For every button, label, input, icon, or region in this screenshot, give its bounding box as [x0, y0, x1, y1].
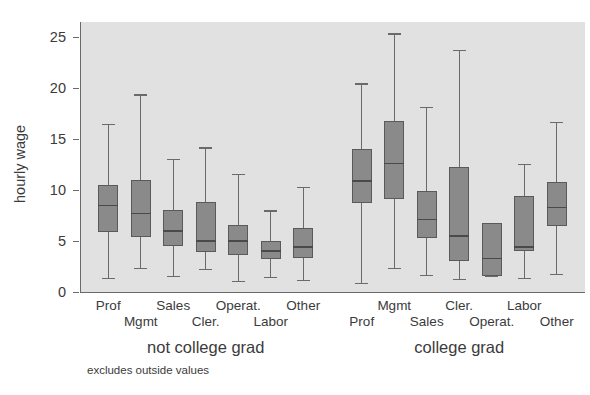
- box-plot-box: [196, 202, 216, 252]
- whisker-cap-lower: [453, 279, 466, 280]
- x-category-label: Cler.: [445, 298, 473, 313]
- box-plot-box: [384, 121, 404, 199]
- median-line: [228, 240, 248, 242]
- median-line: [482, 258, 502, 260]
- whisker-lower: [140, 237, 141, 268]
- y-tick-label: 10: [32, 182, 66, 198]
- box-plot-box: [482, 223, 502, 276]
- whisker-cap-lower: [420, 275, 433, 276]
- median-line: [417, 219, 437, 221]
- whisker-cap-lower: [232, 281, 245, 282]
- whisker-lower: [270, 259, 271, 276]
- whisker-cap-upper: [199, 147, 212, 148]
- whisker-cap-lower: [167, 276, 180, 277]
- x-category-label: Other: [540, 314, 574, 329]
- whisker-lower: [205, 252, 206, 268]
- y-axis-line: [80, 22, 81, 292]
- whisker-cap-upper: [355, 83, 368, 84]
- x-category-label: Mgmt: [377, 298, 411, 313]
- x-category-label: Prof: [96, 298, 121, 313]
- whisker-cap-upper: [167, 159, 180, 160]
- x-category-label: Labor: [507, 298, 542, 313]
- whisker-upper: [361, 83, 362, 149]
- whisker-upper: [303, 187, 304, 228]
- whisker-cap-lower: [355, 283, 368, 284]
- median-line: [131, 213, 151, 215]
- x-category-label: Other: [286, 298, 320, 313]
- x-category-label: Mgmt: [124, 314, 158, 329]
- whisker-upper: [238, 174, 239, 225]
- whisker-lower: [361, 203, 362, 282]
- whisker-cap-lower: [297, 280, 310, 281]
- whisker-lower: [108, 232, 109, 278]
- whisker-upper: [524, 164, 525, 197]
- box-plot-box: [352, 149, 372, 203]
- box-plot-box: [163, 210, 183, 246]
- box-plot-box: [547, 182, 567, 226]
- median-line: [163, 230, 183, 232]
- whisker-cap-lower: [485, 276, 498, 277]
- whisker-cap-lower: [550, 274, 563, 275]
- y-tick-label: 0: [32, 284, 66, 300]
- median-line: [384, 163, 404, 165]
- whisker-cap-lower: [199, 269, 212, 270]
- whisker-cap-lower: [102, 278, 115, 279]
- y-tick-label: 15: [32, 131, 66, 147]
- whisker-lower: [394, 199, 395, 267]
- whisker-upper: [459, 50, 460, 167]
- whisker-cap-upper: [550, 122, 563, 123]
- whisker-cap-upper: [232, 174, 245, 175]
- whisker-cap-lower: [388, 268, 401, 269]
- median-line: [261, 250, 281, 252]
- whisker-lower: [524, 251, 525, 277]
- box-plot-box: [98, 185, 118, 232]
- whisker-cap-upper: [453, 50, 466, 51]
- y-tick-mark: [73, 139, 79, 140]
- whisker-cap-upper: [297, 187, 310, 188]
- box-plot-box: [131, 180, 151, 237]
- y-tick-label: 5: [32, 233, 66, 249]
- box-plot-box: [514, 196, 534, 251]
- whisker-cap-upper: [420, 107, 433, 108]
- box-plot-figure: 0510152025hourly wageProfMgmtSalesCler.O…: [0, 0, 590, 395]
- whisker-lower: [238, 255, 239, 280]
- y-tick-label: 25: [32, 29, 66, 45]
- whisker-upper: [108, 124, 109, 185]
- median-line: [293, 246, 313, 248]
- x-category-label: Labor: [253, 314, 288, 329]
- whisker-lower: [173, 246, 174, 276]
- whisker-lower: [426, 238, 427, 275]
- median-line: [449, 235, 469, 237]
- whisker-cap-upper: [518, 164, 531, 165]
- y-tick-mark: [73, 88, 79, 89]
- x-category-label: Operat.: [469, 314, 514, 329]
- plot-area: [80, 22, 585, 292]
- box-plot-box: [293, 228, 313, 259]
- whisker-lower: [459, 261, 460, 278]
- x-group-label: college grad: [414, 338, 504, 357]
- x-group-label: not college grad: [147, 338, 264, 357]
- whisker-cap-lower: [264, 277, 277, 278]
- median-line: [196, 240, 216, 242]
- median-line: [352, 180, 372, 182]
- whisker-upper: [205, 147, 206, 202]
- whisker-cap-upper: [388, 33, 401, 34]
- whisker-cap-upper: [102, 124, 115, 125]
- median-line: [98, 205, 118, 207]
- y-tick-mark: [73, 241, 79, 242]
- whisker-cap-upper: [134, 94, 147, 95]
- whisker-upper: [394, 33, 395, 121]
- x-axis-line: [80, 292, 585, 293]
- box-plot-box: [417, 191, 437, 238]
- y-tick-mark: [73, 37, 79, 38]
- x-category-label: Sales: [156, 298, 190, 313]
- x-category-label: Prof: [349, 314, 374, 329]
- x-category-label: Sales: [410, 314, 444, 329]
- y-tick-mark: [73, 190, 79, 191]
- whisker-lower: [556, 226, 557, 274]
- whisker-upper: [173, 159, 174, 211]
- y-tick-mark: [73, 292, 79, 293]
- box-plot-box: [449, 167, 469, 262]
- y-tick-label: 20: [32, 80, 66, 96]
- whisker-cap-upper: [264, 210, 277, 211]
